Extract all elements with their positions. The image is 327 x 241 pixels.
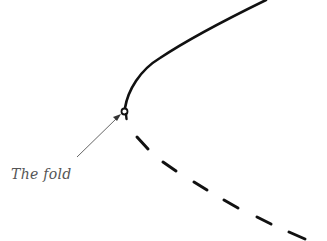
unstable-branch-dashed <box>137 137 305 239</box>
fold-label: The fold <box>11 166 72 182</box>
stable-branch-curve <box>125 0 266 108</box>
fold-diagram <box>0 0 327 241</box>
fold-tick <box>126 114 127 119</box>
arrow-icon <box>77 114 121 157</box>
